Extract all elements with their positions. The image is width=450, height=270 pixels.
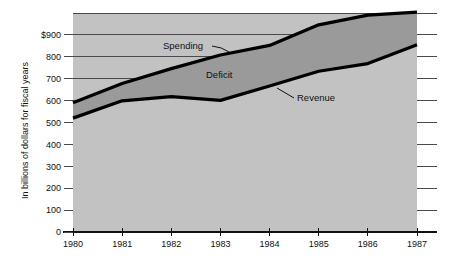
y-tick-label-800: 800	[46, 52, 61, 62]
y-tick-label-400: 400	[46, 140, 61, 150]
x-tick-label-1987: 1987	[407, 239, 427, 249]
spending-label: Spending	[163, 40, 203, 51]
y-tick-label-700: 700	[46, 74, 61, 84]
x-tick-label-1982: 1982	[161, 239, 181, 249]
x-tick-label-1983: 1983	[210, 239, 230, 249]
budget-area-chart: 0100200300400500600700800$900 1980198119…	[0, 0, 450, 270]
y-tick-label-600: 600	[46, 96, 61, 106]
y-tick-label-500: 500	[46, 118, 61, 128]
y-tick-label-200: 200	[46, 183, 61, 193]
y-tick-label-0: 0	[56, 227, 61, 237]
y-tick-label-300: 300	[46, 162, 61, 172]
y-axis-title: In billions of dollars for fiscal years	[20, 61, 30, 199]
x-tick-label-1980: 1980	[63, 239, 83, 249]
y-tick-label-900: $900	[41, 30, 61, 40]
x-tick-label-1984: 1984	[260, 239, 280, 249]
deficit-label: Deficit	[206, 69, 233, 80]
x-tick-label-1985: 1985	[309, 239, 329, 249]
chart-screenshot: 0100200300400500600700800$900 1980198119…	[0, 0, 450, 270]
y-tick-label-100: 100	[46, 205, 61, 215]
revenue-label: Revenue	[297, 92, 335, 103]
x-tick-label-1986: 1986	[358, 239, 378, 249]
x-tick-label-1981: 1981	[112, 239, 132, 249]
